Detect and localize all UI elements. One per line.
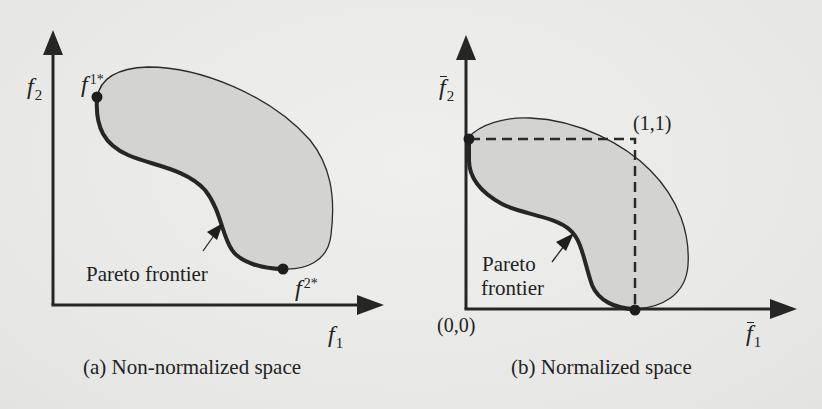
point-symbol: f <box>295 275 302 301</box>
y-axis-symbol-overbar: f <box>439 75 446 99</box>
panel-a-x-axis-label: f1 <box>328 322 343 346</box>
y-axis-subscript: 2 <box>35 87 43 103</box>
panel-b-callout-arrowhead <box>556 233 574 251</box>
x-axis-symbol: f <box>328 321 335 347</box>
panel-b-y-axis-arrowhead <box>456 35 476 60</box>
panel-b-point-top <box>464 134 475 145</box>
panel-a-point-f2-star-label: f2* <box>295 276 318 300</box>
y-axis-symbol: f <box>27 73 34 99</box>
panel-a-callout-arrowhead <box>207 223 223 240</box>
panel-a-pareto-frontier-label: Pareto frontier <box>86 264 208 285</box>
panel-b-callout-arrow-line <box>552 246 564 262</box>
y-axis-subscript: 2 <box>447 88 455 104</box>
point-superscript: 2* <box>304 276 318 291</box>
panel-a-point-f2-star <box>278 264 289 275</box>
panel-b-x-axis-arrowhead <box>770 299 797 319</box>
x-axis-subscript: 1 <box>754 334 762 350</box>
point-symbol: f <box>81 71 88 97</box>
panel-a-point-f1-star-label: f1* <box>81 72 104 96</box>
panel-a-caption: (a) Non-normalized space <box>83 357 301 378</box>
panel-b-origin-label: (0,0) <box>437 315 475 335</box>
panel-a-y-axis-arrowhead <box>43 30 63 55</box>
panel-b-x-axis-label: f1 <box>746 321 761 345</box>
panel-a-x-axis-arrowhead <box>357 295 384 315</box>
panel-a-feasible-region <box>97 67 333 269</box>
panel-b-pareto-label-line2: frontier <box>481 278 544 299</box>
panel-b-point-bottom <box>630 305 641 316</box>
panel-b-pareto-label-line1: Pareto <box>482 254 536 275</box>
panel-a-y-axis-label: f2 <box>27 74 42 98</box>
x-axis-symbol-overbar: f <box>746 321 753 345</box>
panel-b-y-axis-label: f2 <box>439 75 454 99</box>
panel-b-caption: (b) Normalized space <box>511 357 692 378</box>
pareto-figure-svg <box>0 0 822 409</box>
x-axis-subscript: 1 <box>336 335 344 351</box>
panel-b-corner-label: (1,1) <box>633 113 671 133</box>
point-superscript: 1* <box>90 72 104 87</box>
